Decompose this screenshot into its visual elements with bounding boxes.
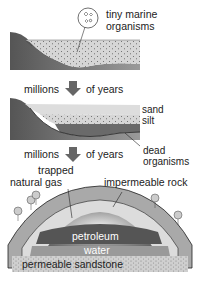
impermeable-rock-label: impermeable rock bbox=[104, 176, 188, 188]
arrow-down-icon bbox=[65, 147, 81, 162]
silt-label: silt bbox=[142, 115, 154, 126]
water-label: water bbox=[83, 244, 110, 256]
stage-1-ocean-floor: tiny marine organisms bbox=[10, 8, 158, 70]
of-years-label-1: of years bbox=[86, 83, 123, 95]
sand-label: sand bbox=[142, 104, 164, 115]
dead-organisms-label-2: organisms bbox=[143, 156, 189, 167]
petroleum-label: petroleum bbox=[72, 230, 119, 242]
organisms-label-2: organisms bbox=[106, 20, 154, 32]
oil-formation-diagram: tiny marine organisms millions of years … bbox=[0, 0, 200, 281]
arrow-down-icon bbox=[65, 81, 81, 96]
gas-label-2: natural gas bbox=[10, 176, 62, 188]
sandstone-label: permeable sandstone bbox=[22, 258, 123, 270]
stage-3-oil-trap: trapped natural gas impermeable rock pet… bbox=[8, 164, 192, 272]
organisms-label-1: tiny marine bbox=[106, 8, 158, 20]
transition-1: millions of years bbox=[24, 81, 123, 96]
gas-label-1: trapped bbox=[38, 164, 74, 176]
millions-label-1: millions bbox=[24, 83, 59, 95]
of-years-label-2: of years bbox=[86, 148, 123, 160]
transition-2: millions of years bbox=[24, 147, 123, 162]
dead-organisms-label-1: dead bbox=[143, 145, 165, 156]
millions-label-2: millions bbox=[24, 148, 59, 160]
